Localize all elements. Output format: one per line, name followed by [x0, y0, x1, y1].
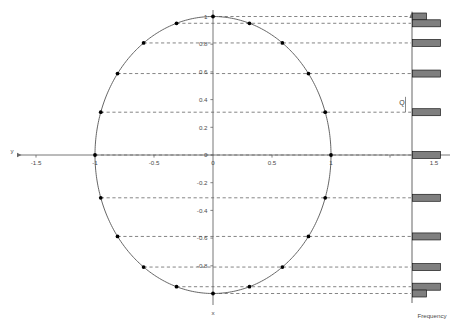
y-tick-label-7: -0.4: [197, 207, 208, 214]
histogram-bar-9: [413, 283, 441, 290]
histogram-bar-2: [413, 39, 441, 46]
y-axis-name: y: [10, 147, 14, 154]
y-tick-label-4: 0.2: [199, 124, 208, 131]
y-tick-label-1: 0.8: [199, 40, 208, 47]
histogram-bar-6: [413, 194, 441, 201]
tick-labels: -1.5-1-0.500.511.50.80.60.40.20-0.2-0.4-…: [10, 13, 447, 319]
data-point-16: [99, 110, 103, 114]
data-point-0: [211, 15, 215, 19]
histogram-bar-0: [413, 13, 427, 20]
data-point-19: [175, 21, 179, 25]
data-point-5: [329, 153, 333, 157]
histogram-bar-10: [413, 290, 427, 297]
frequency-axis-label: Frequency: [417, 312, 447, 319]
x-tick-label-3: 0: [211, 159, 215, 166]
data-point-9: [248, 285, 252, 289]
data-point-8: [280, 265, 284, 269]
data-point-3: [307, 72, 311, 76]
data-point-12: [142, 265, 146, 269]
data-point-4: [323, 110, 327, 114]
x-tick-label-0: -1.5: [31, 159, 42, 166]
scatter-plot-with-frequency-histogram: -1.5-1-0.500.511.50.80.60.40.20-0.2-0.4-…: [0, 0, 453, 325]
data-point-15: [93, 153, 97, 157]
x-tick-label-2: -0.5: [149, 159, 160, 166]
data-point-10: [211, 292, 215, 296]
histogram-bar-4: [413, 109, 441, 116]
data-point-6: [323, 196, 327, 200]
x-tick-label-6: 1.5: [430, 159, 439, 166]
histogram-bar-5: [413, 152, 441, 159]
figure-canvas: -1.5-1-0.500.511.50.80.60.40.20-0.2-0.4-…: [0, 0, 453, 325]
histogram-bar-8: [413, 264, 441, 271]
data-point-11: [175, 285, 179, 289]
x-tick-label-1: -1: [92, 159, 98, 166]
y-tick-label-6: -0.2: [197, 179, 208, 186]
data-point-17: [116, 72, 120, 76]
y-tick-label-8: -0.6: [197, 234, 208, 241]
frequency-histogram: [409, 11, 440, 303]
data-point-1: [248, 21, 252, 25]
y-tick-label-5: 0: [204, 151, 208, 158]
y-tick-label-2: 0.6: [199, 68, 208, 75]
y-tick-label-top: 1: [204, 13, 208, 20]
data-point-14: [99, 196, 103, 200]
axes: [17, 10, 450, 305]
histogram-bar-3: [413, 70, 441, 77]
data-point-7: [307, 235, 311, 239]
x-tick-label-5: 1: [329, 159, 333, 166]
data-point-13: [116, 235, 120, 239]
x-tick-label-4: 0.5: [268, 159, 277, 166]
q-marker-label: Q: [399, 99, 405, 107]
histogram-bar-7: [413, 233, 441, 240]
y-tick-label-3: 0.4: [199, 96, 208, 103]
data-point-18: [142, 41, 146, 45]
y-tick-label-9: -0.8: [197, 262, 208, 269]
y-axis-arrow-icon: [17, 153, 22, 157]
histogram-bar-1: [413, 20, 441, 27]
x-axis-name: x: [211, 309, 215, 316]
data-point-2: [280, 41, 284, 45]
